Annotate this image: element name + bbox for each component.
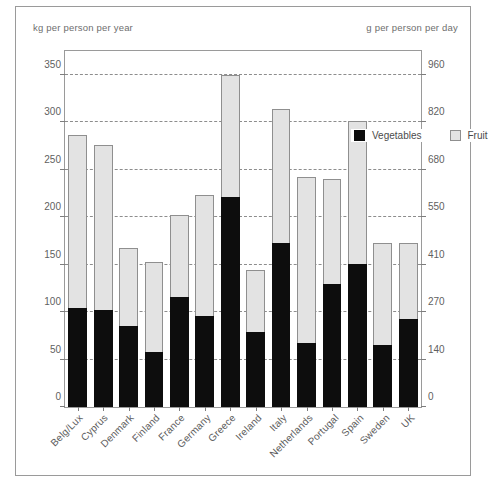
bar-stack[interactable]	[272, 109, 291, 407]
right-axis-caption: g per person per day	[366, 22, 458, 33]
bar-segment-vegetables[interactable]	[221, 197, 240, 407]
legend-label-vegetables: Vegetables	[372, 130, 422, 141]
bar-slot[interactable]	[90, 51, 115, 407]
y-tick-label-right: 270	[428, 296, 445, 307]
y-tick-label-left: 150	[44, 248, 61, 259]
bar-segment-vegetables[interactable]	[297, 343, 316, 407]
bar-slot[interactable]	[65, 51, 90, 407]
bar-segment-fruit[interactable]	[195, 195, 214, 316]
bar-segment-vegetables[interactable]	[94, 310, 113, 407]
x-label-slot: Finland	[141, 410, 167, 480]
x-label-slot: Greece	[217, 410, 243, 480]
bar-slot[interactable]	[294, 51, 319, 407]
y-tickmark-right	[421, 311, 426, 312]
bar-stack[interactable]	[221, 75, 240, 407]
bar-segment-vegetables[interactable]	[348, 264, 367, 407]
y-tick-label-right: 960	[428, 58, 445, 69]
y-tick-label-right: 410	[428, 248, 445, 259]
bar-segment-vegetables[interactable]	[170, 297, 189, 407]
bar-stack[interactable]	[348, 121, 367, 407]
bar-segment-fruit[interactable]	[94, 145, 113, 310]
bar-slot[interactable]	[319, 51, 344, 407]
y-tick-label-left: 350	[44, 58, 61, 69]
bar-segment-fruit[interactable]	[323, 179, 342, 283]
bar-slot[interactable]	[141, 51, 166, 407]
bar-segment-fruit[interactable]	[68, 135, 87, 309]
y-tick-label-right: 820	[428, 106, 445, 117]
y-tickmark-right	[421, 264, 426, 265]
y-tick-label-left: 0	[55, 391, 61, 402]
bar-stack[interactable]	[195, 195, 214, 407]
bar-segment-fruit[interactable]	[145, 262, 164, 352]
bar-stack[interactable]	[373, 243, 392, 407]
bar-segment-vegetables[interactable]	[323, 284, 342, 407]
bar-stack[interactable]	[94, 145, 113, 407]
bar-slot[interactable]	[345, 51, 370, 407]
bar-segment-fruit[interactable]	[119, 248, 138, 327]
bar-slot[interactable]	[243, 51, 268, 407]
x-label-slot: UK	[397, 410, 423, 480]
x-label-slot: Germany	[192, 410, 218, 480]
x-axis-category-label: Italy	[268, 412, 289, 433]
chart-legend: Vegetables Fruit	[351, 129, 491, 142]
y-tick-label-left: 300	[44, 106, 61, 117]
bar-segment-fruit[interactable]	[221, 75, 240, 197]
x-label-slot: Belg/Lux	[64, 410, 90, 480]
bar-segment-vegetables[interactable]	[399, 319, 418, 407]
bar-slot[interactable]	[218, 51, 243, 407]
x-axis-labels: Belg/LuxCyprusDenmarkFinlandFranceGerman…	[64, 410, 422, 480]
bar-segment-fruit[interactable]	[373, 243, 392, 346]
x-label-slot: Portugal	[320, 410, 346, 480]
y-tick-label-right: 680	[428, 153, 445, 164]
bar-segment-fruit[interactable]	[348, 121, 367, 263]
bar-stack[interactable]	[68, 135, 87, 407]
bar-stack[interactable]	[297, 177, 316, 407]
y-tickmark-right	[421, 216, 426, 217]
bar-slot[interactable]	[268, 51, 293, 407]
bar-slot[interactable]	[395, 51, 420, 407]
bar-segment-fruit[interactable]	[170, 215, 189, 297]
bar-segment-vegetables[interactable]	[246, 332, 265, 407]
bar-slot[interactable]	[116, 51, 141, 407]
y-tick-label-right: 140	[428, 343, 445, 354]
y-tickmark-right	[421, 121, 426, 122]
bar-segment-vegetables[interactable]	[68, 308, 87, 407]
x-label-slot: Denmark	[115, 410, 141, 480]
y-tick-label-left: 250	[44, 153, 61, 164]
bar-segment-fruit[interactable]	[246, 270, 265, 332]
y-tick-label-right: 0	[428, 391, 434, 402]
bar-stack[interactable]	[119, 248, 138, 407]
x-label-slot: Netherlands	[294, 410, 320, 480]
x-axis-category-label: UK	[399, 412, 417, 430]
y-tickmark-right	[421, 406, 426, 407]
bar-segment-fruit[interactable]	[272, 109, 291, 243]
legend-label-fruit: Fruit	[468, 130, 488, 141]
bar-segment-fruit[interactable]	[399, 243, 418, 319]
y-tick-label-right: 550	[428, 201, 445, 212]
y-tickmark-right	[421, 74, 426, 75]
bar-stack[interactable]	[246, 270, 265, 407]
bar-segment-vegetables[interactable]	[373, 345, 392, 407]
y-tick-label-left: 50	[50, 343, 61, 354]
bar-segment-vegetables[interactable]	[119, 326, 138, 407]
bar-stack[interactable]	[170, 215, 189, 407]
bar-stack[interactable]	[145, 262, 164, 407]
bar-stack[interactable]	[399, 243, 418, 407]
x-label-slot: Spain	[345, 410, 371, 480]
bar-segment-vegetables[interactable]	[195, 316, 214, 407]
bar-segment-vegetables[interactable]	[145, 352, 164, 407]
bar-segment-vegetables[interactable]	[272, 243, 291, 407]
bars-layer	[65, 51, 421, 407]
x-label-slot: Ireland	[243, 410, 269, 480]
y-tickmark-right	[421, 359, 426, 360]
legend-swatch-vegetables	[354, 130, 365, 141]
bar-stack[interactable]	[323, 179, 342, 407]
bar-slot[interactable]	[370, 51, 395, 407]
y-tick-label-left: 100	[44, 296, 61, 307]
y-tick-label-left: 200	[44, 201, 61, 212]
legend-swatch-fruit	[450, 130, 461, 141]
bar-segment-fruit[interactable]	[297, 177, 316, 343]
bar-slot[interactable]	[192, 51, 217, 407]
plot-area: 0050140100270150410200550250680300820350…	[64, 50, 422, 408]
bar-slot[interactable]	[167, 51, 192, 407]
